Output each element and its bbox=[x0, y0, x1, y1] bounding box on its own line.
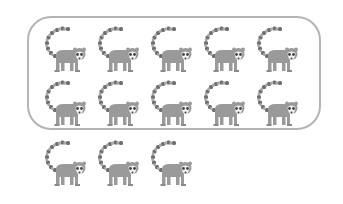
lemur-icon bbox=[201, 25, 247, 73]
lemur-icon bbox=[95, 139, 141, 187]
lemur-icon bbox=[148, 25, 194, 73]
lemur-icon bbox=[42, 139, 88, 187]
lemur-icon bbox=[201, 79, 247, 127]
lemur-icon bbox=[148, 139, 194, 187]
lemur-icon bbox=[254, 25, 300, 73]
lemur-icon bbox=[95, 79, 141, 127]
lemur-icon bbox=[95, 25, 141, 73]
lemur-icon bbox=[42, 79, 88, 127]
lemur-icon bbox=[254, 79, 300, 127]
lemur-icon bbox=[42, 25, 88, 73]
lemur-icon bbox=[148, 79, 194, 127]
